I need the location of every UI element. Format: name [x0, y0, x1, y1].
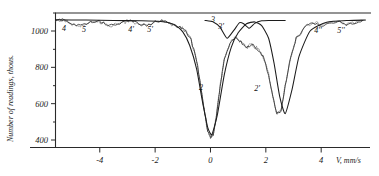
peak-label-3: 3 [210, 15, 215, 24]
spectrum-plot: 4006008001000 -4-2024 454'5'33'22'4''5''… [0, 0, 379, 176]
peak-label-5: 5 [82, 25, 86, 34]
peak-label-4primeprime: 4'' [314, 26, 322, 35]
peak-label-group: 454'5'33'22'4''5'' [62, 15, 345, 93]
x-axis-ticks [100, 148, 321, 153]
y-tick-label: 600 [35, 99, 49, 109]
peak-label-4: 4 [62, 24, 66, 33]
peak-label-2prime: 2' [254, 84, 260, 93]
x-tick-label: 2 [264, 155, 269, 165]
peak-label-4prime: 4' [128, 25, 134, 34]
x-axis-tick-labels: -4-2024 [96, 155, 324, 165]
y-tick-label: 800 [35, 62, 49, 72]
y-axis-tick-labels: 4006008001000 [31, 26, 49, 145]
y-axis-ticks [51, 13, 56, 140]
moessbauer-spectrum-figure: 4006008001000 -4-2024 454'5'33'22'4''5''… [0, 0, 379, 176]
spectrum-curves [56, 18, 366, 138]
noise-trace [56, 18, 363, 138]
fitted-envelope-curve [56, 20, 366, 135]
x-tick-label: -2 [152, 155, 160, 165]
y-tick-label: 400 [35, 135, 49, 145]
peak-label-5prime: 5' [147, 25, 153, 34]
fitted-narrow-curve [205, 20, 285, 38]
x-tick-label: 4 [319, 155, 324, 165]
experimental-curve [56, 19, 363, 138]
y-axis-title: Number of readings, thous. [6, 55, 15, 143]
x-tick-label: -4 [96, 155, 104, 165]
x-tick-label: 0 [208, 155, 213, 165]
y-tick-label: 1000 [31, 26, 49, 36]
x-axis-title: V, mm/s [336, 156, 361, 165]
peak-label-3prime: 3' [217, 22, 224, 31]
peak-label-5primeprime: 5'' [337, 26, 345, 35]
peak-label-2: 2 [199, 83, 203, 92]
